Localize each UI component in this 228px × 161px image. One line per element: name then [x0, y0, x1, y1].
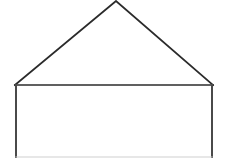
canvas-background [0, 0, 228, 161]
figure-canvas [0, 0, 228, 161]
house-shape-drawing [0, 0, 228, 161]
